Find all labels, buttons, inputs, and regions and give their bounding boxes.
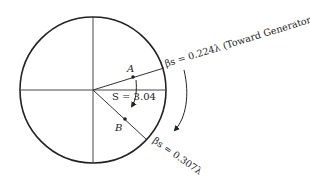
label-point-b: B — [114, 122, 122, 133]
label-beta-a: βs = 0.224λ (Toward Generator) — [163, 13, 310, 69]
label-point-a: A — [126, 63, 134, 74]
label-swr: S = 3.04 — [112, 91, 156, 102]
smith-chart-diagram: A B S = 3.04 βs = 0.224λ (Toward Generat… — [0, 0, 310, 186]
rotation-arrow — [175, 70, 187, 130]
point-b — [123, 117, 127, 121]
point-a — [131, 75, 135, 79]
label-beta-b: βs = 0.307λ — [151, 135, 204, 177]
